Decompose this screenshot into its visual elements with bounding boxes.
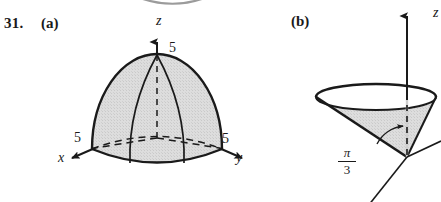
angle-numerator: π (336, 146, 358, 160)
x-axis-line-a (72, 148, 95, 158)
z-axis-label-b: z (433, 6, 438, 20)
part-a-label: (a) (41, 16, 59, 31)
x-intercept-value: 5 (74, 131, 81, 145)
cone-rim-back (316, 84, 436, 97)
part-b-label: (b) (291, 14, 309, 29)
axis-lower-left-b (368, 157, 407, 202)
y-axis-label-a: y (236, 151, 242, 165)
cone-figure (316, 16, 441, 202)
figure-page: 31. (a) (b) z x y z 5 5 5 π 3 (0, 0, 441, 202)
angle-denominator: 3 (336, 163, 358, 177)
z-intercept-value: 5 (169, 41, 176, 55)
clipped-figure-above (128, 0, 214, 4)
x-axis-label-a: x (58, 151, 64, 165)
z-axis-label-a: z (156, 14, 161, 28)
problem-number: 31. (4, 16, 24, 31)
angle-fraction-label: π 3 (336, 146, 358, 176)
y-intercept-value: 5 (222, 132, 229, 146)
figure-graphics (0, 0, 441, 202)
hemisphere-figure (72, 42, 242, 163)
